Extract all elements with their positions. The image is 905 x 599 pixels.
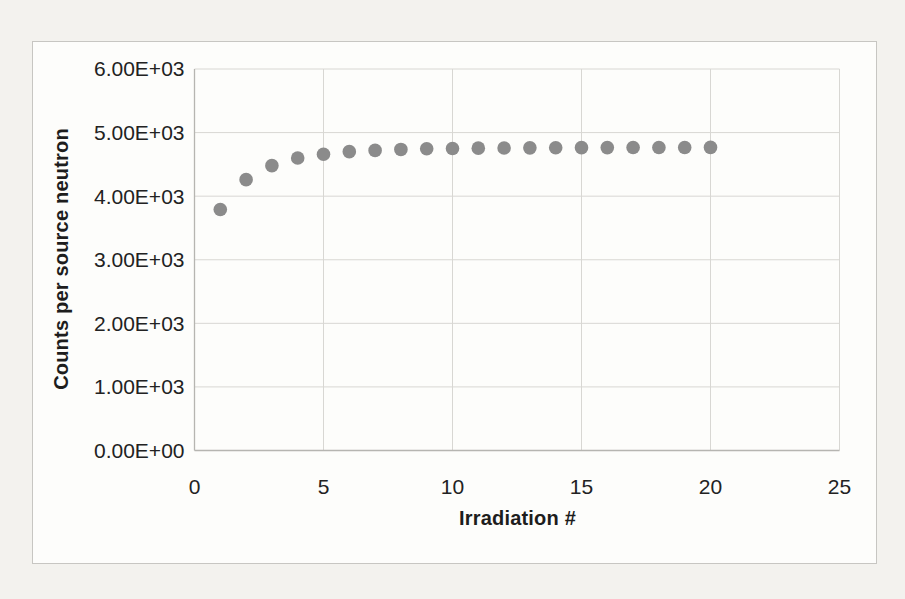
scatter-plot: 0.00E+001.00E+032.00E+033.00E+034.00E+03…: [33, 42, 876, 563]
data-point: [601, 141, 615, 155]
x-tick-label: 0: [189, 475, 201, 498]
data-point: [472, 141, 486, 155]
y-tick-label: 0.00E+00: [94, 439, 185, 462]
x-tick-label: 5: [318, 475, 330, 498]
data-point: [291, 151, 305, 165]
data-point: [317, 147, 331, 161]
data-point: [678, 141, 692, 155]
x-tick-label: 15: [570, 475, 593, 498]
data-point: [265, 159, 279, 173]
x-tick-label: 20: [699, 475, 722, 498]
y-tick-label: 6.00E+03: [94, 57, 185, 80]
data-point: [214, 203, 228, 217]
x-tick-label: 25: [828, 475, 851, 498]
y-tick-label: 2.00E+03: [94, 312, 185, 335]
y-tick-label: 5.00E+03: [94, 121, 185, 144]
y-tick-label: 4.00E+03: [94, 185, 185, 208]
y-tick-label: 3.00E+03: [94, 248, 185, 271]
data-point: [394, 143, 408, 157]
data-point: [549, 141, 563, 155]
y-axis-title: Counts per source neutron: [47, 59, 75, 459]
data-point: [575, 141, 589, 155]
y-tick-label: 1.00E+03: [94, 375, 185, 398]
data-point: [652, 141, 666, 155]
data-point: [239, 173, 253, 187]
x-axis-title: Irradiation #: [195, 507, 840, 530]
data-point: [420, 142, 434, 156]
data-point: [343, 145, 357, 159]
data-point: [368, 144, 382, 158]
data-point: [626, 141, 640, 155]
x-tick-label: 10: [441, 475, 464, 498]
data-point: [446, 142, 460, 156]
chart-frame: 0.00E+001.00E+032.00E+033.00E+034.00E+03…: [32, 41, 877, 564]
data-point: [704, 141, 718, 155]
data-point: [497, 141, 511, 155]
data-point: [523, 141, 537, 155]
